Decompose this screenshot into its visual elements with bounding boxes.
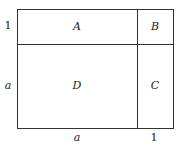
bottom-left-side-label: a — [74, 132, 81, 144]
region-c-label: C — [151, 80, 159, 92]
horizontal-divider — [17, 44, 174, 45]
bottom-right-side-label: 1 — [151, 132, 158, 144]
region-d-label: D — [73, 80, 82, 92]
left-bottom-side-label: a — [5, 80, 12, 92]
vertical-divider — [137, 9, 138, 129]
region-a-label: A — [73, 21, 81, 33]
left-top-side-label: 1 — [5, 20, 12, 32]
region-b-label: B — [151, 21, 159, 33]
